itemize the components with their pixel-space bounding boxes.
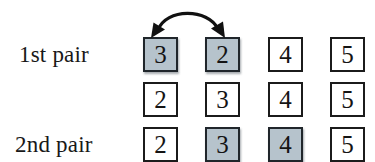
- cell-row0-col1: 2: [205, 37, 240, 72]
- cell-row0-col2: 4: [268, 37, 303, 72]
- cell-row1-col0: 2: [143, 82, 178, 117]
- cell-row1-col2: 4: [268, 82, 303, 117]
- cell-row2-col2: 4: [268, 127, 303, 162]
- cell-row2-col3: 5: [330, 127, 365, 162]
- cell-row0-col3: 5: [330, 37, 365, 72]
- cell-row1-col1: 3: [205, 82, 240, 117]
- cell-row2-col1: 3: [205, 127, 240, 162]
- cell-row0-col0: 3: [143, 37, 178, 72]
- diagram-canvas: 1st pair 2nd pair 3 2 4 5 2 3 4 5 2 3 4 …: [0, 0, 375, 162]
- cell-row2-col0: 2: [143, 127, 178, 162]
- cell-row1-col3: 5: [330, 82, 365, 117]
- swap-arrow-icon: [140, 2, 240, 42]
- row-label-1st-pair: 1st pair: [19, 42, 89, 68]
- row-label-2nd-pair: 2nd pair: [15, 132, 93, 158]
